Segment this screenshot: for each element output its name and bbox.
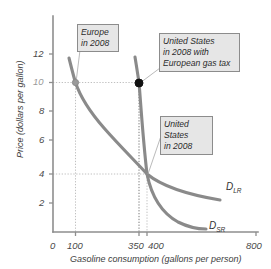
y-tick-label-6: 6	[39, 135, 44, 145]
callout-europe-2008: Europe in 2008	[77, 24, 119, 52]
y-tick-label-12: 12	[33, 49, 44, 59]
leader-us-with-tax	[140, 68, 160, 83]
x-tick-label-0: 0	[50, 241, 55, 251]
y-tick-label-2: 2	[39, 198, 44, 208]
leader-europe	[76, 50, 80, 83]
point-europe-2008	[72, 79, 78, 85]
curve-label-d-sr: DSR	[209, 221, 225, 234]
y-tick-label-8: 8	[39, 106, 44, 116]
curve-label-d-lr-sub: LR	[233, 187, 241, 194]
curve-label-d-lr: DLR	[226, 182, 242, 195]
x-tick-label-350: 350	[128, 241, 144, 251]
callout-leader-lines	[76, 50, 161, 174]
y-tick-label-10: 10	[33, 77, 44, 87]
callout-us-2008-with-euro-tax: United States in 2008 with European gas …	[159, 33, 240, 72]
y-tick-label-4: 4	[39, 169, 44, 179]
x-tick-label-400: 400	[148, 241, 164, 251]
y-axis-title: Price (dollars per gallon)	[16, 60, 25, 158]
x-tick-label-100: 100	[67, 241, 83, 251]
curve-label-d-sr-sub: SR	[216, 226, 225, 233]
callout-us-2008: United States in 2008	[160, 116, 213, 155]
x-tick-label-800: 800	[246, 241, 262, 251]
gasoline-demand-chart: 12 10 8 6 4 2 0 100 350 400 800 Price (d…	[0, 0, 271, 269]
x-axis-title: Gasoline consumption (gallons per person…	[70, 255, 242, 264]
point-us-2008-with-euro-tax	[135, 79, 143, 87]
